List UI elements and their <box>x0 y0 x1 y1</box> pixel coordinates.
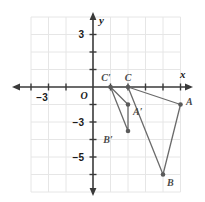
point-b <box>161 172 166 177</box>
point-label-a-prime: A′ <box>132 106 143 117</box>
x-tick-label-minus3: −3 <box>36 92 48 103</box>
point-a-prime <box>126 102 131 107</box>
point-label-c-prime: C′ <box>101 72 111 83</box>
y-tick-label-3: 3 <box>78 29 84 40</box>
origin-label: O <box>80 90 87 101</box>
point-c-prime <box>108 85 113 90</box>
point-label-c: C <box>125 72 132 83</box>
point-b-prime <box>126 129 131 134</box>
point-c <box>126 85 131 90</box>
y-tick-label-minus5: −5 <box>73 152 85 163</box>
point-label-b-prime: B′ <box>102 134 113 145</box>
y-tick-label-minus3: −3 <box>73 117 85 128</box>
coordinate-plane-figure: y x −3 3 −3 −5 O A B C A′ B′ C′ <box>0 0 205 202</box>
x-axis-label: x <box>179 68 186 80</box>
point-label-b: B <box>166 177 174 188</box>
point-a <box>178 102 183 107</box>
y-axis-label: y <box>97 14 104 26</box>
point-label-a: A <box>185 96 193 107</box>
